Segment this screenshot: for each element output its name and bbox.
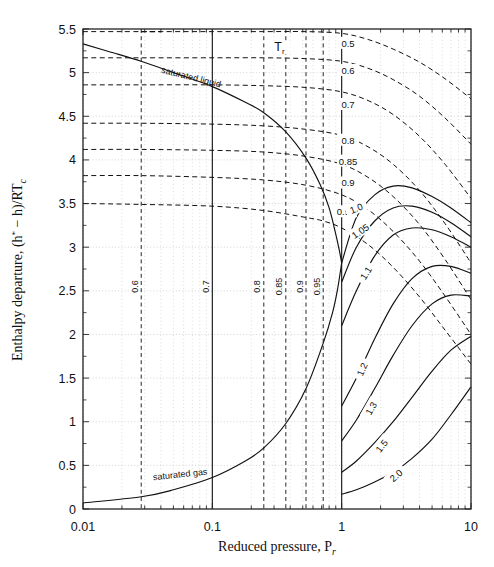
svg-text:0.5: 0.5 xyxy=(341,38,354,49)
curve-label-0.8: 0.8 xyxy=(337,134,359,146)
curve-label-0.9: 0.9 xyxy=(337,176,359,188)
chart-svg: 0.60.70.80.850.90.95 0.010.111000.511.52… xyxy=(0,0,494,567)
y-tick-label-4: 4 xyxy=(69,153,76,167)
sat-pressure-label-0.7: 0.7 xyxy=(201,280,211,293)
x-tick-label-1: 1 xyxy=(338,520,345,534)
svg-text:0.8: 0.8 xyxy=(341,135,354,146)
svg-text:0.7: 0.7 xyxy=(341,99,354,110)
curve-label-0.85: 0.85 xyxy=(337,155,359,167)
y-tick-label-3.5: 3.5 xyxy=(59,197,76,211)
curve-label-0.5: 0.5 xyxy=(337,37,359,49)
legend-title-tr: Tr xyxy=(270,40,290,56)
sat-pressure-label-0.85: 0.85 xyxy=(274,278,284,296)
sat-pressure-label-0.95: 0.95 xyxy=(312,278,322,296)
y-tick-label-1.5: 1.5 xyxy=(59,372,76,386)
svg-text:0.9: 0.9 xyxy=(341,177,354,188)
sat-pressure-label-0.9: 0.9 xyxy=(295,280,305,293)
y-tick-label-5.5: 5.5 xyxy=(59,23,76,37)
curve-label-0.6: 0.6 xyxy=(337,64,359,76)
enthalpy-departure-chart: 0.60.70.80.850.90.95 0.010.111000.511.52… xyxy=(0,0,494,567)
y-tick-label-3: 3 xyxy=(69,241,76,255)
svg-text:0.6: 0.6 xyxy=(341,65,354,76)
x-tick-label-0.01: 0.01 xyxy=(71,520,95,534)
y-tick-label-2.5: 2.5 xyxy=(59,284,76,298)
svg-text:0.85: 0.85 xyxy=(339,156,358,167)
x-tick-label-0.1: 0.1 xyxy=(204,520,221,534)
y-tick-label-2: 2 xyxy=(69,328,76,342)
y-tick-label-5: 5 xyxy=(69,66,76,80)
y-tick-label-1: 1 xyxy=(69,415,76,429)
curve-label-0.7: 0.7 xyxy=(337,98,359,110)
sat-pressure-label-0.8: 0.8 xyxy=(252,280,262,293)
x-tick-label-10: 10 xyxy=(464,520,478,534)
y-tick-label-0: 0 xyxy=(69,503,76,517)
sat-pressure-label-0.6: 0.6 xyxy=(130,280,140,293)
y-tick-label-0.5: 0.5 xyxy=(59,459,76,473)
y-tick-label-4.5: 4.5 xyxy=(59,110,76,124)
